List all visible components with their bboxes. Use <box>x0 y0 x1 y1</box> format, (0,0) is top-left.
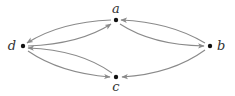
node-label-b: b <box>217 38 225 53</box>
edge-a-to-b <box>120 24 204 46</box>
node-d <box>21 44 25 48</box>
node-label-c: c <box>112 79 120 94</box>
directed-graph-diagram: a b c d <box>0 0 235 96</box>
node-label-d: d <box>8 38 16 53</box>
node-label-a: a <box>112 1 120 16</box>
edge-c-to-d <box>28 48 112 73</box>
node-a <box>114 18 118 22</box>
node-b <box>208 44 212 48</box>
edge-b-to-c <box>122 50 205 77</box>
